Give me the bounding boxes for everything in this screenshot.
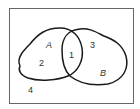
region-a-only-label: 2 (39, 58, 44, 68)
venn-diagram: A 1 2 3 B 4 (0, 0, 140, 109)
region-outside-label: 4 (28, 85, 33, 95)
region-b-only-label: 3 (90, 40, 95, 50)
set-a-label: A (45, 40, 52, 50)
set-b-label: B (100, 68, 106, 78)
region-intersection-label: 1 (69, 50, 74, 60)
